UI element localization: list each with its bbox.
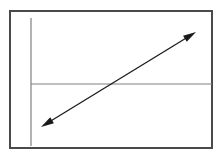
diagram-border (10, 11, 212, 148)
arrowhead-end-icon (183, 32, 196, 42)
diagram-svg (0, 0, 221, 159)
diagonal-double-arrow (41, 32, 196, 127)
diagram-canvas (0, 0, 221, 159)
diagonal-arrow-shaft (47, 36, 190, 124)
arrowhead-start-icon (41, 117, 54, 127)
